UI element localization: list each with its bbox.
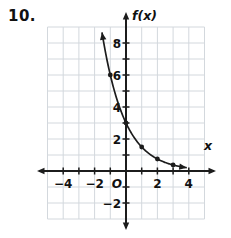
x-tick-label: −2: [85, 177, 103, 191]
y-tick-label: −2: [103, 197, 121, 211]
curve-end-arrow-icon: [179, 164, 187, 170]
x-tick-label: −4: [54, 177, 72, 191]
worksheet-figure: 10. −4−224−22468f(x)xO: [0, 0, 231, 238]
data-point: [108, 73, 113, 78]
x-axis-right-arrow-icon: [209, 168, 217, 174]
x-axis-left-arrow-icon: [37, 168, 45, 174]
function-graph: −4−224−22468f(x)xO: [0, 0, 231, 238]
x-axis-label: x: [203, 138, 213, 153]
curve-start-arrow-icon: [100, 32, 106, 40]
y-tick-label: 2: [113, 133, 121, 147]
data-point: [155, 157, 160, 162]
data-point: [171, 163, 176, 168]
x-tick-label: 2: [153, 177, 161, 191]
y-tick-label: 8: [113, 37, 121, 51]
y-axis-up-arrow-icon: [123, 12, 129, 20]
y-axis-label: f(x): [132, 8, 157, 23]
data-point: [139, 145, 144, 150]
y-axis-down-arrow-icon: [123, 223, 129, 231]
origin-label: O: [112, 177, 122, 191]
y-tick-label: 6: [113, 69, 121, 83]
data-point: [124, 121, 129, 126]
x-tick-label: 4: [185, 177, 193, 191]
